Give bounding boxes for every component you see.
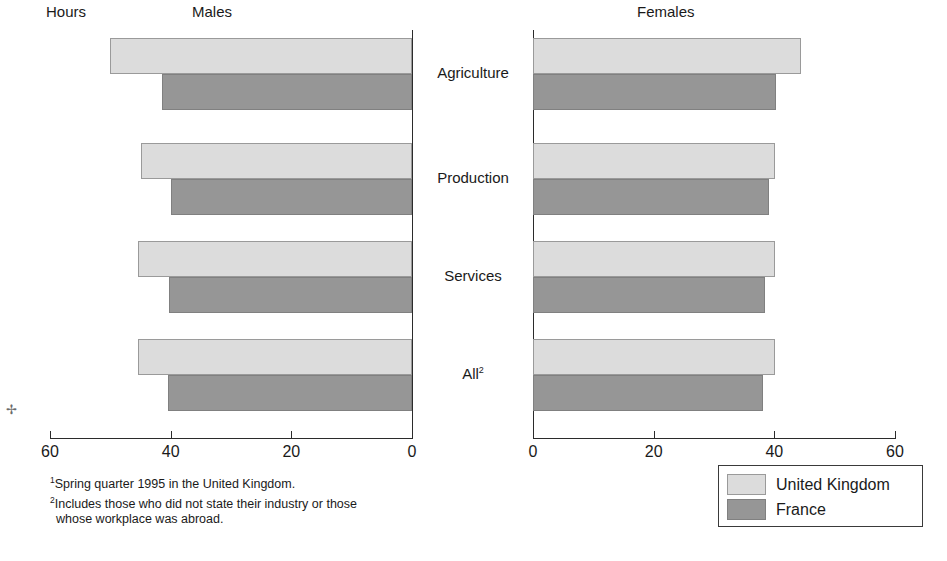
category-footnote-marker: 2 (479, 365, 484, 375)
footnote-line-3: whose workplace was abroad. (50, 512, 510, 528)
bar-males-production-uk (141, 143, 412, 179)
category-label-agriculture: Agriculture (413, 64, 533, 81)
scan-artifact-mark: ✢ (6, 404, 18, 416)
tick-females-20 (654, 431, 655, 439)
bar-males-agriculture-fr (162, 74, 412, 110)
tick-label-males-40: 40 (141, 443, 201, 461)
legend-swatch-uk (727, 474, 766, 495)
category-label-all: All2 (413, 365, 533, 382)
legend-item-fr: France (727, 497, 922, 522)
bar-females-all-fr (533, 375, 763, 411)
tick-males-60 (50, 431, 51, 439)
tick-males-0 (412, 431, 413, 439)
legend-item-uk: United Kingdom (727, 472, 922, 497)
category-label-services: Services (413, 267, 533, 284)
panel-header-males: Males (192, 3, 232, 20)
tick-females-0 (533, 431, 534, 439)
panel-header-females: Females (637, 3, 695, 20)
footnote-marker: 2 (50, 495, 55, 505)
footnotes: 1Spring quarter 1995 in the United Kingd… (50, 473, 510, 528)
units-header: Hours (46, 3, 86, 20)
bar-males-services-fr (169, 277, 412, 313)
tick-females-40 (774, 431, 775, 439)
tick-females-60 (895, 431, 896, 439)
x-axis-males (50, 438, 413, 439)
bar-males-all-fr (168, 375, 412, 411)
bar-males-all-uk (138, 339, 412, 375)
legend-label-uk: United Kingdom (776, 476, 890, 494)
legend-swatch-fr (727, 499, 766, 520)
legend: United KingdomFrance (718, 465, 923, 527)
bar-males-agriculture-uk (110, 38, 412, 74)
tick-label-females-0: 0 (503, 443, 563, 461)
footnote-marker: 1 (50, 475, 55, 485)
chart-figure: Hours Males Females AgricultureProductio… (0, 0, 947, 561)
footnote-line-2: 2Includes those who did not state their … (50, 493, 510, 513)
tick-label-females-40: 40 (744, 443, 804, 461)
bar-females-production-fr (533, 179, 769, 215)
x-axis-females (533, 438, 896, 439)
tick-label-females-20: 20 (624, 443, 684, 461)
category-label-production: Production (413, 169, 533, 186)
bar-males-production-fr (171, 179, 412, 215)
bar-females-all-uk (533, 339, 775, 375)
tick-label-males-20: 20 (261, 443, 321, 461)
tick-males-20 (291, 431, 292, 439)
bar-females-agriculture-fr (533, 74, 776, 110)
bar-females-services-uk (533, 241, 775, 277)
tick-males-40 (171, 431, 172, 439)
tick-label-males-60: 60 (20, 443, 80, 461)
legend-label-fr: France (776, 501, 826, 519)
bar-males-services-uk (138, 241, 412, 277)
bar-females-production-uk (533, 143, 775, 179)
tick-label-females-60: 60 (865, 443, 925, 461)
bar-females-agriculture-uk (533, 38, 801, 74)
tick-label-males-0: 0 (382, 443, 442, 461)
bar-females-services-fr (533, 277, 765, 313)
footnote-line-1: 1Spring quarter 1995 in the United Kingd… (50, 473, 510, 493)
